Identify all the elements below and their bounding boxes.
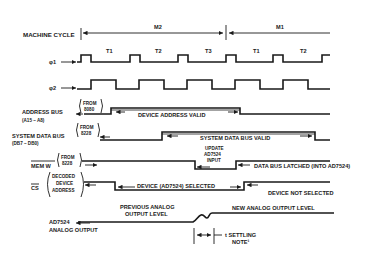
source-bracket-right — [80, 153, 82, 167]
analog-output-waveform — [78, 213, 334, 222]
cs-source-line3: ADDRESS — [52, 188, 74, 193]
state-t2-a: T2 — [155, 48, 162, 54]
machine-cycle-label: MACHINE CYCLE — [23, 31, 75, 38]
mem-w-row: MEM W FROM 8228 UPDATE AD7524 INPUT DATA… — [31, 146, 350, 169]
phi1-row: φ1 T1 T2 T3 T1 T2 — [49, 48, 330, 65]
address-bus-waveform — [84, 108, 330, 114]
settling-label-line2: NOTE¹ — [232, 239, 250, 245]
mem-w-pulse-line1: UPDATE — [205, 146, 224, 151]
analog-new-level-label: NEW ANALOG OUTPUT LEVEL — [232, 205, 315, 211]
state-t3: T3 — [205, 48, 212, 54]
state-t2-b: T2 — [300, 48, 307, 54]
address-bus-row: ADDRESS BUS (A15 – A8) FROM 8080 DEVICE … — [22, 99, 330, 123]
address-bus-sublabel: (A15 – A8) — [22, 118, 45, 123]
system-data-bus-row: SYSTEM DATA BUS (DB7 – DB0) FROM 8228 SY… — [12, 123, 330, 146]
cs-source-line2: DEVICE — [56, 181, 73, 186]
system-data-bus-sublabel: (DB7 – DB0) — [12, 141, 39, 146]
cs-not-selected-annotation: DEVICE NOT SELECTED — [268, 190, 334, 196]
phi1-label: φ1 — [49, 59, 56, 65]
system-data-bus-source-line2: 8228 — [81, 131, 92, 136]
analog-previous-line1: PREVIOUS ANALOG — [120, 204, 175, 210]
source-bracket-left — [48, 172, 51, 197]
source-bracket-left — [80, 99, 82, 113]
mem-w-label: MEM W — [31, 163, 52, 169]
state-t1-b: T1 — [253, 48, 260, 54]
phi1-waveform — [77, 55, 330, 62]
phi2-waveform — [77, 80, 330, 89]
timing-diagram: MACHINE CYCLE M2 M1 φ1 T1 T2 T3 T1 T2 φ2… — [0, 0, 380, 260]
address-bus-source-line2: 8080 — [84, 107, 95, 112]
source-bracket-right — [101, 99, 103, 113]
cycle-label-m1: M1 — [276, 24, 284, 30]
source-bracket-left — [58, 153, 60, 167]
state-t1-a: T1 — [106, 48, 113, 54]
cs-source-line1: DECODED — [52, 174, 76, 179]
system-data-bus-annotation: SYSTEM DATA BUS VALID — [200, 135, 270, 141]
cs-label: CS — [31, 185, 39, 191]
analog-previous-line2: OUTPUT LEVEL — [125, 211, 168, 217]
analog-output-row: PREVIOUS ANALOG OUTPUT LEVEL AD7524 ANAL… — [49, 204, 334, 245]
mem-w-source-line1: FROM — [61, 155, 75, 160]
cycle-label-m2: M2 — [154, 24, 162, 30]
source-bracket-left — [77, 123, 79, 137]
cs-selected-annotation: DEVICE (AD7524) SELECTED — [137, 183, 215, 189]
phi2-label: φ2 — [49, 85, 56, 91]
mem-w-pulse-line2: AD7524 — [204, 152, 221, 157]
mem-w-source-line2: 8228 — [62, 161, 73, 166]
settling-label-line1: t SETTLING — [225, 232, 256, 238]
analog-output-label-line2: ANALOG OUTPUT — [49, 227, 98, 233]
system-data-bus-source-line1: FROM — [80, 125, 94, 130]
analog-output-label-line1: AD7524 — [49, 219, 70, 225]
cs-row: CS DECODED DEVICE ADDRESS DEVICE (AD7524… — [31, 172, 334, 197]
source-bracket-right — [81, 172, 84, 197]
address-bus-source-line1: FROM — [83, 101, 97, 106]
address-bus-label: ADDRESS BUS — [22, 109, 63, 115]
system-data-bus-label: SYSTEM DATA BUS — [12, 133, 65, 139]
mem-w-pulse-line3: INPUT — [207, 158, 221, 163]
address-bus-annotation: DEVICE ADDRESS VALID — [138, 112, 205, 118]
phi2-row: φ2 — [49, 80, 330, 91]
machine-cycle-row: MACHINE CYCLE M2 M1 — [23, 24, 330, 40]
mem-w-annotation: DATA BUS LATCHED (INTO AD7524) — [254, 163, 350, 169]
source-bracket-right — [98, 123, 100, 137]
